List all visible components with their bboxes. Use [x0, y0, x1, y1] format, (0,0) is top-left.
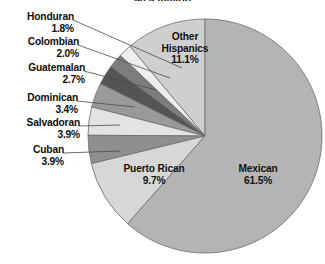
label-other-hispanics-pct: 11.1%	[152, 54, 218, 66]
label-honduran: Honduran 1.8%	[27, 11, 74, 34]
label-mexican-pct: 61.5%	[222, 175, 294, 187]
label-cuban: Cuban 3.9%	[33, 144, 64, 167]
pie-chart: 50.5 million Honduran 1.8% Colombian 2.0…	[0, 0, 325, 264]
label-honduran-name: Honduran	[27, 11, 74, 22]
label-mexican: Mexican 61.5%	[222, 163, 294, 186]
label-colombian-pct: 2.0%	[28, 48, 79, 60]
label-puerto-rican-pct: 9.7%	[113, 175, 195, 187]
label-guatemalan-pct: 2.7%	[28, 74, 85, 86]
label-mexican-name: Mexican	[238, 163, 277, 174]
label-other-hispanics-line1: Other	[172, 31, 198, 42]
label-salvadoran: Salvadoran 3.9%	[27, 117, 80, 140]
label-other-hispanics: Other Hispanics 11.1%	[152, 31, 218, 66]
label-honduran-pct: 1.8%	[27, 23, 74, 35]
label-colombian: Colombian 2.0%	[28, 36, 79, 59]
label-guatemalan: Guatemalan 2.7%	[28, 62, 85, 85]
label-puerto-rican-name: Puerto Rican	[123, 163, 184, 174]
label-salvadoran-pct: 3.9%	[27, 129, 80, 141]
label-puerto-rican: Puerto Rican 9.7%	[113, 163, 195, 186]
label-other-hispanics-line2: Hispanics	[152, 43, 218, 55]
label-dominican-pct: 3.4%	[27, 104, 78, 116]
label-dominican-name: Dominican	[27, 92, 78, 103]
label-cuban-name: Cuban	[33, 144, 64, 155]
label-cuban-pct: 3.9%	[33, 156, 64, 168]
label-dominican: Dominican 3.4%	[27, 92, 78, 115]
label-colombian-name: Colombian	[28, 36, 79, 47]
label-salvadoran-name: Salvadoran	[27, 117, 80, 128]
label-guatemalan-name: Guatemalan	[28, 62, 85, 73]
